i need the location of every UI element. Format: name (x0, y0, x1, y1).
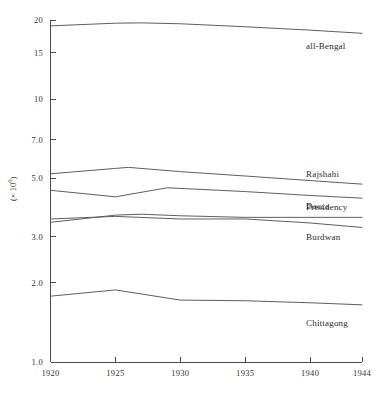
series-line-dacca (51, 188, 363, 198)
series-label-rajshahi: Rajshahi (306, 169, 339, 179)
y-tick-label: 10 (10, 94, 43, 104)
chart-series-lines (51, 23, 363, 305)
series-label-chittagong: Chittagong (306, 318, 348, 328)
y-tick-label: 2.0 (10, 278, 43, 288)
series-line-chittagong (51, 290, 363, 305)
x-tick-label: 1935 (236, 368, 254, 378)
x-tick-label: 1930 (171, 368, 189, 378)
series-line-burdwan (51, 216, 363, 227)
y-tick-label: 20 (10, 15, 43, 25)
x-tick-label: 1920 (41, 368, 59, 378)
chart-axes (51, 20, 363, 363)
series-label-all-bengal: all-Bengal (306, 41, 346, 51)
y-tick-label: 1.0 (10, 357, 43, 367)
series-line-all-bengal (51, 23, 363, 33)
x-tick-label: 1940 (301, 368, 319, 378)
y-tick-label: 3.0 (10, 232, 43, 242)
series-label-presidency: Presidency (306, 202, 348, 212)
series-line-presidency (51, 214, 363, 222)
series-label-burdwan: Burdwan (306, 232, 340, 242)
line-chart: 1.02.03.05.07.0101520 192019251930193519… (0, 0, 381, 396)
y-tick-label: 15 (10, 48, 43, 58)
y-tick-label: 7.0 (10, 135, 43, 145)
chart-plot-area (0, 0, 381, 396)
y-axis-title: (× 106) (6, 161, 18, 217)
x-tick-label: 1944 (353, 368, 371, 378)
x-tick-marks (51, 357, 363, 362)
x-tick-label: 1925 (106, 368, 124, 378)
